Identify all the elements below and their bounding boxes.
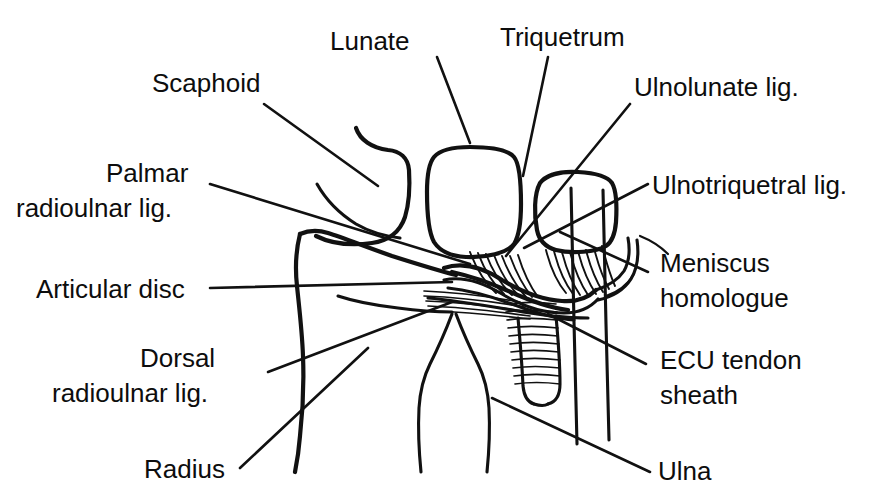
figure-canvas: Scaphoid Lunate Triquetrum Ulnolunate li… [0,0,872,501]
label-articular-disc: Articular disc [36,274,185,304]
label-ulna: Ulna [658,456,712,486]
label-palmar-radioulnar-lig-line2: radioulnar lig. [16,193,172,223]
label-ulnolunate-lig: Ulnolunate lig. [634,72,799,102]
label-radius: Radius [144,454,225,484]
tfcc-anatomy-diagram: Scaphoid Lunate Triquetrum Ulnolunate li… [0,0,872,501]
label-ulnotriquetral-lig: Ulnotriquetral lig. [652,170,847,200]
label-meniscus-homologue-line1: Meniscus [660,248,770,278]
label-palmar-radioulnar-lig-line1: Palmar [106,158,189,188]
label-lunate: Lunate [330,26,410,56]
label-triquetrum: Triquetrum [500,22,625,52]
label-scaphoid: Scaphoid [152,68,260,98]
label-dorsal-radioulnar-lig-line1: Dorsal [140,343,215,373]
label-ecu-tendon-sheath-line2: sheath [660,380,738,410]
label-meniscus-homologue-line2: homologue [660,283,789,313]
label-dorsal-radioulnar-lig-line2: radioulnar lig. [52,378,208,408]
label-ecu-tendon-sheath-line1: ECU tendon [660,345,802,375]
